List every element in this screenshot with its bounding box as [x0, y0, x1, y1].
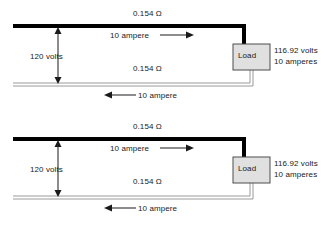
load-output-values-1: 116.92 volts 10 amperes [274, 45, 318, 67]
circuit-diagram-2: 0.154 Ω 10 ampere 120 volts 0.154 Ω 10 a… [0, 113, 331, 226]
bottom-resistance-label-2: 0.154 Ω [133, 177, 162, 187]
return-conductor-1-outer [13, 70, 250, 83]
top-current-label-1: 10 ampere [110, 31, 149, 41]
load-label-1: Load [238, 51, 256, 61]
top-current-label-2: 10 ampere [110, 144, 149, 154]
return-conductor-2-outer [13, 183, 250, 196]
load-voltage-label-2: 116.92 volts [274, 158, 318, 169]
current-arrow-top-1-head [186, 32, 194, 39]
source-voltage-label-2: 120 volts [30, 165, 63, 175]
circuit-diagram-1: 0.154 Ω 10 ampere 120 volts 0.154 Ω 10 a… [0, 0, 331, 113]
voltage-arrow-1-head-up [55, 27, 62, 34]
load-output-values-2: 116.92 volts 10 amperes [274, 158, 318, 180]
voltage-arrow-2-head-up [55, 140, 62, 147]
load-current-label-1: 10 amperes [274, 56, 318, 67]
top-resistance-label-2: 0.154 Ω [133, 122, 162, 132]
source-voltage-label-1: 120 volts [30, 52, 63, 62]
current-arrow-bottom-1-head [104, 92, 112, 99]
bottom-resistance-label-1: 0.154 Ω [133, 64, 162, 74]
load-voltage-label-1: 116.92 volts [274, 45, 318, 56]
bottom-current-label-1: 10 ampere [138, 91, 177, 101]
top-resistance-label-1: 0.154 Ω [133, 9, 162, 19]
bottom-current-label-2: 10 ampere [138, 204, 177, 214]
load-label-2: Load [238, 164, 256, 174]
current-arrow-top-2-head [186, 145, 194, 152]
load-current-label-2: 10 amperes [274, 169, 318, 180]
current-arrow-bottom-2-head [104, 205, 112, 212]
diagram-canvas: 0.154 Ω 10 ampere 120 volts 0.154 Ω 10 a… [0, 0, 331, 226]
